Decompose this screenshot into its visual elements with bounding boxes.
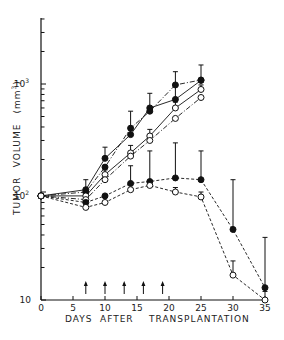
x-tick-label: 10: [99, 303, 111, 313]
filled-circle-marker: [128, 180, 134, 186]
open-circle-marker: [172, 105, 178, 111]
x-axis-title-transplantation: TRANSPLANTATION: [148, 314, 250, 324]
open-circle-marker: [198, 94, 204, 100]
open-circle-marker: [128, 153, 134, 159]
series-open-solid: [38, 85, 204, 199]
x-tick-label: 35: [259, 303, 270, 313]
open-circle-marker: [230, 272, 236, 278]
axis-labels: 10 102 103 TUMORVOLUME(mm3) DAYS AFTER T…: [10, 77, 250, 324]
filled-circle-marker: [147, 108, 153, 114]
treatment-arrow-icon: [84, 281, 88, 294]
treatment-arrows: [84, 281, 165, 294]
open-circle-marker: [38, 193, 44, 199]
open-circle-marker: [147, 137, 153, 143]
line-chart: 05101520253035 10 102 103 TUMORVOLUME(mm…: [0, 0, 284, 340]
filled-circle-marker: [102, 193, 108, 199]
treatment-arrow-icon: [103, 281, 107, 294]
x-tick-label: 30: [227, 303, 239, 313]
series-line: [41, 185, 265, 300]
y-tick-label-10: 10: [20, 295, 32, 305]
open-circle-marker: [198, 86, 204, 92]
treatment-arrow-icon: [161, 281, 165, 294]
open-circle-marker: [147, 182, 153, 188]
open-circle-marker: [102, 177, 108, 183]
x-tick-label: 0: [38, 303, 44, 313]
y-axis-title: TUMORVOLUME(mm3): [10, 80, 22, 216]
x-tick-label: 20: [163, 303, 175, 313]
axes: 05101520253035: [38, 18, 271, 313]
open-circle-marker: [102, 199, 108, 205]
filled-circle-marker: [172, 96, 178, 102]
filled-circle-marker: [128, 125, 134, 131]
x-axis-title-after: AFTER: [100, 314, 134, 324]
data-series: [38, 65, 268, 303]
x-tick-label: 15: [131, 303, 142, 313]
treatment-arrow-icon: [122, 281, 126, 294]
open-circle-marker: [262, 297, 268, 303]
treatment-arrow-icon: [141, 281, 145, 294]
series-line: [41, 98, 201, 200]
series-open-dashdot: [38, 94, 204, 202]
filled-circle-marker: [102, 164, 108, 170]
open-circle-marker: [172, 189, 178, 195]
open-circle-marker: [198, 194, 204, 200]
series-filled-dashdot: [38, 77, 204, 199]
open-circle-marker: [83, 204, 89, 210]
filled-circle-marker: [172, 175, 178, 181]
x-tick-label: 5: [70, 303, 76, 313]
filled-circle-marker: [172, 82, 178, 88]
x-tick-label: 25: [195, 303, 206, 313]
filled-circle-marker: [128, 132, 134, 138]
series-filled-solid: [38, 65, 204, 199]
open-circle-marker: [128, 187, 134, 193]
open-circle-marker: [172, 115, 178, 121]
filled-circle-marker: [102, 155, 108, 161]
filled-circle-marker: [262, 285, 268, 291]
filled-circle-marker: [198, 77, 204, 83]
filled-circle-marker: [198, 177, 204, 183]
x-axis-title-days: DAYS: [65, 314, 92, 324]
filled-circle-marker: [230, 226, 236, 232]
